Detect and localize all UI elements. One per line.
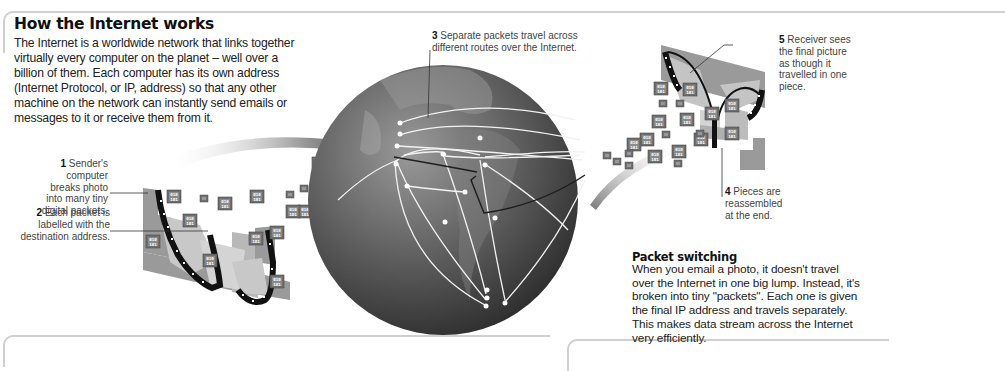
step-2-text: Each packet is labelled with the destina… bbox=[20, 207, 110, 242]
step-5-caption: 5 Receiver sees the final picture as tho… bbox=[779, 34, 859, 93]
sender-photo-pieces bbox=[143, 188, 290, 302]
step-1-number: 1 bbox=[61, 158, 67, 169]
step-3-caption: 3 Separate packets travel across differe… bbox=[432, 30, 588, 54]
step-5-number: 5 bbox=[779, 34, 785, 45]
step-2-number: 2 bbox=[37, 207, 43, 218]
step-5-text: Receiver sees the final picture as thoug… bbox=[779, 34, 851, 92]
packet-switching-body: When you email a photo, it doesn't trave… bbox=[632, 263, 864, 345]
step-3-text: Separate packets travel across different… bbox=[432, 30, 578, 53]
step-4-number: 4 bbox=[725, 186, 731, 197]
step-4-text: Pieces are reassembled at the end. bbox=[725, 186, 782, 221]
globe bbox=[308, 65, 595, 335]
step-4-caption: 4 Pieces are reassembled at the end. bbox=[725, 186, 791, 221]
step-2-caption: 2 Each packet is labelled with the desti… bbox=[18, 207, 110, 242]
step-3-number: 3 bbox=[432, 30, 438, 41]
